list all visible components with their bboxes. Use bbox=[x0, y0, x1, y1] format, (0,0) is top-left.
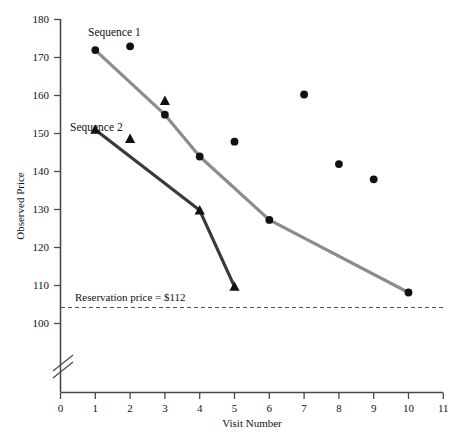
y-tick-label-150: 150 bbox=[33, 127, 50, 139]
circle-point-v5 bbox=[231, 138, 239, 146]
observed-price-chart: 180 170 160 150 140 130 120 110 100 0 1 bbox=[0, 0, 465, 436]
sequence-1-point-v3 bbox=[161, 111, 169, 119]
sequence-2-point-v5 bbox=[229, 281, 239, 290]
triangle-point-v2 bbox=[125, 134, 135, 143]
sequence-2-line bbox=[95, 130, 234, 287]
triangle-point-v3 bbox=[160, 96, 170, 105]
y-tick-label-140: 140 bbox=[33, 165, 50, 177]
x-tick-label-10: 10 bbox=[403, 402, 415, 414]
unconnected-triangle-points bbox=[125, 96, 170, 143]
x-tick-label-6: 6 bbox=[267, 402, 273, 414]
x-tick-label-0: 0 bbox=[58, 402, 64, 414]
chart-container: 180 170 160 150 140 130 120 110 100 0 1 bbox=[0, 0, 465, 436]
y-axis-title: Observed Price bbox=[14, 172, 26, 240]
y-tick-label-130: 130 bbox=[33, 203, 50, 215]
y-ticks-group: 180 170 160 150 140 130 120 110 100 bbox=[33, 13, 61, 329]
sequence-1-point-v4 bbox=[196, 153, 204, 161]
y-tick-label-160: 160 bbox=[33, 89, 50, 101]
x-tick-label-7: 7 bbox=[301, 402, 307, 414]
sequence-1-point-v10 bbox=[405, 289, 413, 297]
y-tick-label-180: 180 bbox=[33, 13, 50, 25]
x-tick-label-2: 2 bbox=[127, 402, 133, 414]
x-tick-label-4: 4 bbox=[197, 402, 203, 414]
reservation-price-annotation: Reservation price = $112 bbox=[61, 291, 443, 308]
series-sequence-2 bbox=[90, 124, 239, 290]
reservation-price-label: Reservation price = $112 bbox=[75, 291, 186, 303]
x-ticks-group: 0 1 2 3 4 5 6 7 8 9 10 11 bbox=[58, 393, 449, 415]
y-tick-label-100: 100 bbox=[33, 317, 50, 329]
sequence-1-line bbox=[95, 50, 408, 292]
x-axis-title: Visit Number bbox=[222, 417, 282, 429]
x-tick-label-11: 11 bbox=[438, 402, 449, 414]
circle-point-v8 bbox=[335, 160, 343, 168]
sequence-1-point-v6 bbox=[265, 216, 273, 224]
y-tick-label-120: 120 bbox=[33, 241, 50, 253]
y-tick-label-170: 170 bbox=[33, 51, 50, 63]
circle-point-v7 bbox=[300, 91, 308, 99]
sequence-1-point-v1 bbox=[91, 46, 99, 54]
x-tick-label-8: 8 bbox=[336, 402, 342, 414]
x-tick-label-5: 5 bbox=[232, 402, 238, 414]
x-tick-label-3: 3 bbox=[162, 402, 168, 414]
circle-point-v2 bbox=[126, 42, 134, 50]
y-tick-label-110: 110 bbox=[33, 279, 50, 291]
y-axis-break-icon bbox=[53, 355, 73, 378]
circle-point-v9 bbox=[370, 175, 378, 183]
series-sequence-1 bbox=[91, 46, 412, 296]
axes-group bbox=[53, 19, 443, 393]
sequence-1-label: Sequence 1 bbox=[88, 26, 141, 39]
x-tick-label-1: 1 bbox=[93, 402, 99, 414]
sequence-2-label: Sequence 2 bbox=[70, 121, 123, 134]
x-tick-label-9: 9 bbox=[371, 402, 377, 414]
